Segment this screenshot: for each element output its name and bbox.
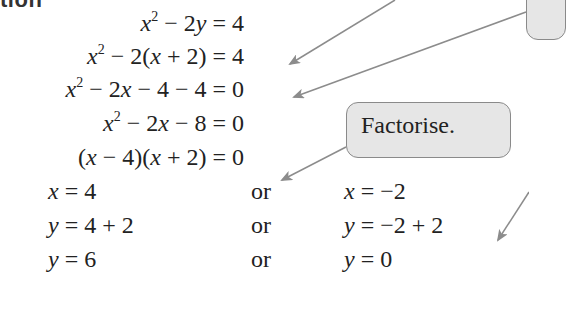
paren: ( [78, 144, 86, 170]
or-label: or [251, 244, 271, 274]
term: + 2) = 4 [161, 43, 244, 69]
var-x: x [158, 110, 169, 136]
solution-left: y = 6 [48, 244, 96, 274]
term: − 4)( [97, 144, 151, 170]
or-label: or [251, 210, 271, 240]
solution-left: y = 4 + 2 [48, 210, 134, 240]
var-x: x [103, 110, 114, 136]
term: − 4 − 4 = 0 [131, 76, 244, 102]
solution-right: x = −2 [344, 176, 406, 206]
var-x: x [150, 43, 161, 69]
arrow-2 [294, 12, 526, 97]
exponent: 2 [98, 42, 105, 57]
var-x: x [86, 144, 97, 170]
callout-factorise: Factorise. [346, 102, 511, 158]
var-x: x [66, 76, 77, 102]
equation-line-2: x2 − 2(x + 2) = 4 [87, 41, 244, 71]
term: − 2 [158, 10, 196, 36]
equation-line-5: (x − 4)(x + 2) = 0 [78, 142, 244, 172]
equation-line-1: x2 − 2y = 4 [141, 8, 244, 38]
equation-line-3: x2 − 2x − 4 − 4 = 0 [66, 74, 244, 104]
solution-right: y = 0 [344, 244, 392, 274]
term: = 4 [206, 10, 244, 36]
solution-row-1: x = 4 or x = −2 [0, 176, 529, 206]
solution-row-3: y = 6 or y = 0 [0, 244, 529, 274]
solution-left: x = 4 [48, 176, 96, 206]
equation-line-4: x2 − 2x − 8 = 0 [103, 108, 244, 138]
var-y: y [196, 10, 207, 36]
solution-right: y = −2 + 2 [344, 210, 443, 240]
var-x: x [150, 144, 161, 170]
var-x: x [121, 76, 132, 102]
section-heading-fragment: tion [0, 0, 42, 13]
exponent: 2 [114, 109, 121, 124]
term: + 2) = 0 [161, 144, 244, 170]
or-label: or [251, 176, 271, 206]
var-x: x [87, 43, 98, 69]
term: − 2( [105, 43, 151, 69]
arrow-1 [290, 0, 395, 64]
solution-row-2: y = 4 + 2 or y = −2 + 2 [0, 210, 529, 240]
callout-partial-offscreen [526, 0, 566, 40]
term: − 2 [83, 76, 121, 102]
term: − 2 [121, 110, 159, 136]
var-x: x [141, 10, 152, 36]
term: − 8 = 0 [169, 110, 244, 136]
